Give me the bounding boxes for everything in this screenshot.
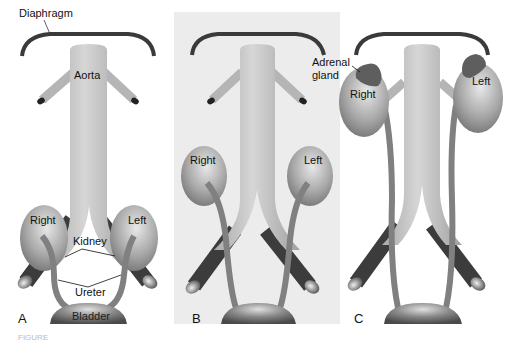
ureter-label: Ureter: [75, 286, 106, 298]
right-kidney-label: Right: [190, 154, 216, 166]
diaphragm-label: Diaphragm: [19, 7, 73, 19]
adrenal-label-line1: Adrenal: [312, 56, 350, 68]
left-kidney-label: Left: [472, 75, 490, 87]
left-kidney-label: Left: [128, 214, 146, 226]
aorta-label: Aorta: [74, 69, 101, 81]
bladder-label: Bladder: [72, 310, 110, 322]
kidney-ascent-diagram: Diaphragm Aorta Right Left Kidney Ureter…: [0, 0, 515, 341]
left-kidney-label: Left: [304, 154, 322, 166]
figure-caption-partial: FIGURE: [18, 333, 48, 341]
adrenal-label-line2: gland: [312, 69, 339, 81]
right-kidney-label: Right: [30, 214, 56, 226]
panel-c: Adrenal gland Right Left C: [312, 34, 503, 326]
panel-letter-c: C: [354, 311, 363, 326]
kidney-label: Kidney: [73, 235, 107, 247]
panel-a: Diaphragm Aorta Right Left Kidney Ureter…: [15, 7, 160, 326]
panel-letter-a: A: [18, 311, 27, 326]
panel-letter-b: B: [192, 311, 201, 326]
right-ureter: [384, 105, 398, 308]
left-ureter: [446, 105, 456, 308]
right-kidney-label: Right: [350, 88, 376, 100]
